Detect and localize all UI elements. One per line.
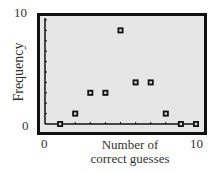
x-axis-label-line1: Number of (70, 138, 190, 152)
data-point-marker-center (74, 112, 76, 114)
data-point-marker-center (59, 123, 61, 125)
x-axis-label-line2: correct guesses (70, 152, 190, 166)
y-tick-label-max: 10 (14, 6, 27, 19)
data-point-marker-center (119, 29, 121, 31)
data-point-marker-center (89, 92, 91, 94)
data-point-marker-center (165, 112, 167, 114)
data-point-marker-center (195, 123, 197, 125)
x-axis-label: Number of correct guesses (70, 138, 190, 166)
data-point-marker-center (134, 81, 136, 83)
y-axis-label: Frequency (11, 37, 27, 107)
data-point-marker-center (180, 123, 182, 125)
x-tick-label-max: 10 (190, 137, 203, 150)
x-tick-label-min: 0 (41, 137, 48, 150)
data-point-marker-center (104, 92, 106, 94)
data-point-marker-center (150, 81, 152, 83)
y-tick-label-min: 0 (22, 119, 29, 132)
